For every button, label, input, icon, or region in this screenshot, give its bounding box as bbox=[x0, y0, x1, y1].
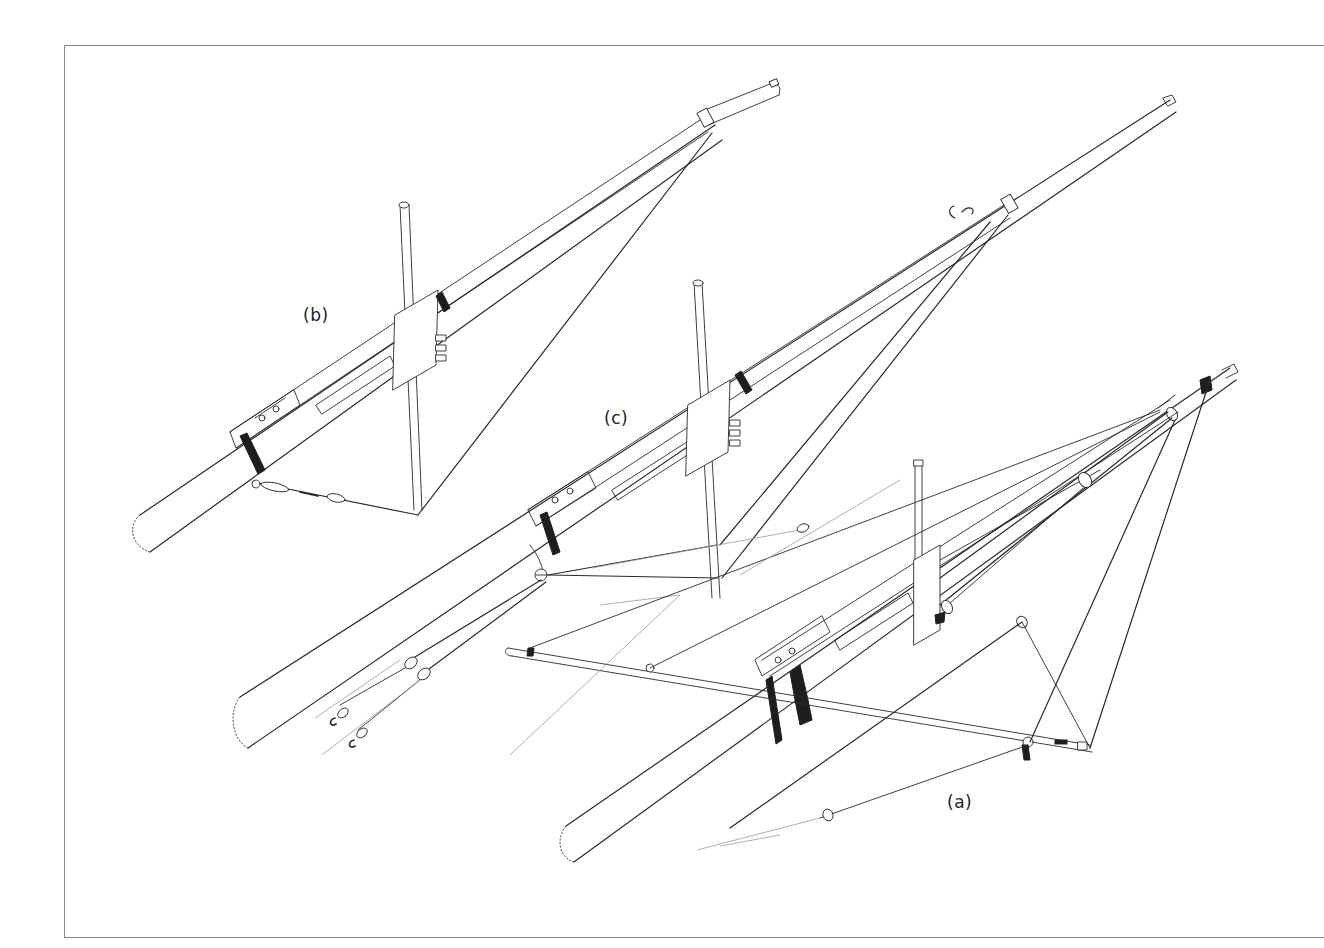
drawing-a bbox=[505, 364, 1238, 862]
label-a: (a) bbox=[947, 792, 972, 812]
label-c: (c) bbox=[604, 408, 628, 428]
label-b: (b) bbox=[303, 305, 329, 325]
drawing-b bbox=[133, 79, 780, 552]
drawing-c bbox=[233, 95, 1176, 755]
